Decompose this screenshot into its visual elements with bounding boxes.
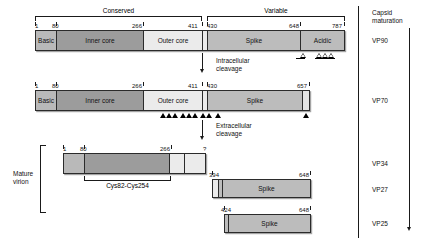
tick-vp90-787 (344, 22, 345, 26)
coord-vp90-787: 787 (332, 23, 342, 29)
coord-vp90-648: 648 (289, 23, 299, 29)
cleavage-triangle-filled (192, 113, 198, 118)
tick-vp25-648 (310, 206, 311, 210)
cleavage-marker-filled-cluster-2 (180, 113, 198, 118)
capsid-maturation-heading-line1: Capsid (372, 9, 392, 17)
bracket-disulfide (84, 176, 171, 181)
intracellular-cleavage-label-line2: cleavage (216, 65, 242, 73)
segment-vp90-outer-core[interactable]: Outer core (144, 31, 203, 50)
tick-vp70-430 (207, 82, 208, 86)
segment-label: Acidic (314, 37, 331, 44)
segment-label: Spike (246, 37, 262, 44)
protein-bar-vp27[interactable]: Spike (212, 179, 311, 198)
tick-vp34-266 (171, 145, 172, 149)
cleavage-marker-filled-pair (200, 113, 212, 118)
segment-vp27-spike[interactable]: Spike (223, 180, 310, 197)
bracket-conserved (35, 16, 202, 21)
tick-vp90-648 (300, 22, 301, 26)
cleavage-marker-filled-single-1 (215, 113, 221, 118)
protein-bar-vp90[interactable]: Basic Inner core Outer core Spike Acidic (35, 30, 345, 51)
bracket-mature-virion (40, 145, 46, 213)
extracellular-cleavage-line (202, 120, 203, 137)
segment-vp70-inner-core[interactable]: Inner core (57, 91, 144, 110)
segment-label: Spike (261, 220, 277, 227)
coord-vp27-648: 648 (299, 172, 309, 178)
segment-vp34-outer-core-part2[interactable] (185, 154, 205, 173)
segment-vp25-spike[interactable]: Spike (229, 215, 310, 232)
coord-vp90-411: 411 (188, 23, 198, 29)
tick-vp34-80 (84, 145, 85, 149)
capsid-maturation-arrow-line (409, 28, 410, 228)
extracellular-cleavage-label-line1: Extracellular (216, 122, 252, 130)
extracellular-cleavage-arrow (200, 136, 204, 140)
tick-vp90-430 (207, 22, 208, 26)
segment-label: Inner core (85, 37, 114, 44)
segment-vp90-spike[interactable]: Spike (208, 31, 301, 50)
tick-vp27-648 (310, 171, 311, 175)
bracket-variable (207, 16, 345, 21)
capsid-maturation-heading-line2: maturation (372, 17, 403, 25)
tick-vp25-424 (224, 206, 225, 210)
coord-vp70-266: 266 (132, 83, 142, 89)
segment-label: Outer core (158, 37, 189, 44)
segment-vp70-basic[interactable]: Basic (36, 91, 57, 110)
segment-label: Outer core (158, 97, 189, 104)
tick-vp70-1 (35, 82, 36, 86)
tick-vp70-411 (202, 82, 203, 86)
cleavage-marker-filled-single-2 (303, 113, 309, 118)
tick-vp90-266 (143, 22, 144, 26)
tick-vp70-657 (309, 82, 310, 86)
mature-virion-label-line1: Mature (13, 170, 33, 178)
bracket-variable-label: Variable (207, 7, 345, 15)
segment-vp70-tail[interactable] (303, 91, 309, 110)
protein-bar-vp25[interactable]: Spike (224, 214, 311, 233)
extracellular-cleavage-label-line2: cleavage (216, 130, 242, 138)
segment-label: Basic (38, 37, 54, 44)
protein-bar-vp70[interactable]: Basic Inner core Outer core Spike (35, 90, 310, 111)
segment-vp70-outer-core[interactable]: Outer core (144, 91, 203, 110)
coord-vp25-424: 424 (221, 207, 231, 213)
segment-vp90-inner-core[interactable]: Inner core (57, 31, 144, 50)
cleavage-triangle-filled (206, 113, 212, 118)
segment-vp90-acidic[interactable]: Acidic (301, 31, 344, 50)
segment-vp34-inner-core[interactable] (85, 154, 171, 173)
intracellular-cleavage-line (202, 53, 203, 70)
coord-vp25-648: 648 (299, 207, 309, 213)
segment-label: Spike (247, 97, 263, 104)
tick-vp90-80 (56, 22, 57, 26)
tick-vp34-1 (63, 145, 64, 149)
stage-label-vp34: VP34 (372, 160, 388, 168)
stage-label-vp27: VP27 (372, 186, 388, 194)
cleavage-marker-underline (296, 58, 305, 59)
coord-vp27-394: 394 (209, 172, 219, 178)
mature-virion-label-line2: virion (13, 178, 29, 186)
coord-vp34-end: ? (203, 146, 206, 152)
bracket-conserved-label: Conserved (35, 7, 202, 15)
protein-bar-vp34[interactable] (63, 153, 206, 174)
stage-label-vp25: VP25 (372, 220, 388, 228)
cleavage-marker-filled-cluster-1 (160, 113, 178, 118)
capsid-maturation-divider (358, 6, 359, 238)
segment-label: Spike (258, 185, 274, 192)
stage-label-vp90: VP90 (372, 37, 388, 45)
intracellular-cleavage-label-line1: Intracellular (216, 57, 250, 65)
disulfide-label: Cys82-Cys254 (84, 182, 171, 190)
cleavage-marker-underline (315, 58, 335, 59)
tick-vp70-266 (143, 82, 144, 86)
coord-vp70-657: 657 (297, 83, 307, 89)
segment-label: Basic (38, 97, 54, 104)
tick-vp27-394 (212, 171, 213, 175)
tick-vp90-411 (202, 22, 203, 26)
capsid-maturation-arrow-head (407, 227, 411, 231)
segment-vp34-basic[interactable] (64, 154, 85, 173)
segment-vp90-basic[interactable]: Basic (36, 31, 57, 50)
coord-vp70-411: 411 (188, 83, 198, 89)
segment-label: Inner core (85, 97, 114, 104)
cleavage-triangle-filled (172, 113, 178, 118)
coord-vp34-266: 266 (160, 146, 170, 152)
tick-vp90-1 (35, 22, 36, 26)
segment-vp34-outer-core-part1[interactable] (170, 154, 185, 173)
coord-vp70-430: 430 (207, 83, 217, 89)
stage-label-vp70: VP70 (372, 97, 388, 105)
segment-vp70-spike[interactable]: Spike (208, 91, 303, 110)
